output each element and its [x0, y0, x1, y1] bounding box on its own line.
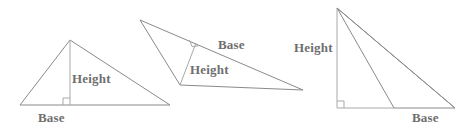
- triangle-1-right-angle-marker: [63, 98, 70, 105]
- triangle-3-base-label: Base: [412, 111, 439, 124]
- triangle-2-outline: [140, 20, 303, 90]
- triangles-diagram: [0, 0, 473, 135]
- triangle-2-base-label: Base: [218, 38, 245, 51]
- triangle-1-base-label: Base: [38, 111, 65, 124]
- triangle-2-height-label: Height: [190, 63, 229, 76]
- triangle-2-group: [140, 20, 303, 90]
- triangle-3-right-angle-marker: [337, 101, 344, 108]
- triangle-3-height-label: Height: [294, 41, 333, 54]
- triangle-3-hypotenuse-line: [337, 8, 455, 108]
- triangle-3-group: [337, 8, 455, 108]
- figure-canvas: Height Base Base Height Height Base: [0, 0, 473, 135]
- triangle-1-height-label: Height: [72, 72, 111, 85]
